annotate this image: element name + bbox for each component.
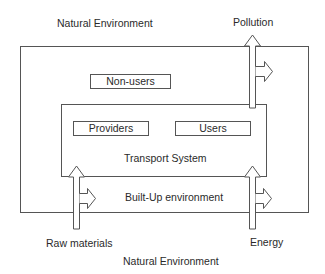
users-box: Users xyxy=(175,121,251,136)
energy-label: Energy xyxy=(250,236,283,248)
natural-environment-top-label: Natural Environment xyxy=(57,17,153,29)
pollution-branch-arrow-icon xyxy=(256,62,273,82)
transport-system-label: Transport System xyxy=(124,152,206,164)
raw-materials-branch-arrow-icon xyxy=(80,189,96,209)
diagram-lines xyxy=(0,0,325,274)
pollution-label: Pollution xyxy=(233,16,273,28)
providers-box: Providers xyxy=(73,121,149,136)
built-up-environment-label: Built-Up environment xyxy=(125,191,223,203)
raw-materials-label: Raw materials xyxy=(46,237,113,249)
energy-branch-arrow-icon xyxy=(256,189,272,209)
non-users-box: Non-users xyxy=(90,74,171,89)
transport-system-box xyxy=(62,105,267,177)
natural-environment-bottom-label: Natural Environment xyxy=(123,255,219,267)
